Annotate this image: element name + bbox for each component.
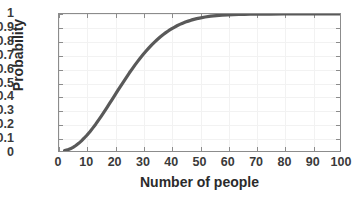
x-tick-label: 60: [221, 155, 235, 169]
x-tick-label: 0: [55, 155, 62, 169]
x-tick-label: 20: [108, 155, 122, 169]
x-tick-label: 80: [277, 155, 291, 169]
x-tick-label: 100: [331, 155, 352, 169]
y-tick-label: 0.1: [0, 131, 14, 145]
x-tick-label: 30: [136, 155, 150, 169]
y-axis-label: Probability: [10, 0, 26, 110]
x-tick-label: 70: [249, 155, 263, 169]
curve-svg: [59, 14, 340, 151]
chart-figure: 0102030405060708090100 00.10.20.30.40.50…: [0, 0, 359, 200]
probability-curve: [65, 14, 340, 151]
plot-area: [58, 13, 341, 152]
y-tick-label: 0: [7, 145, 14, 159]
x-axis-label: Number of people: [58, 174, 341, 190]
y-tick-label: 0.2: [0, 117, 14, 131]
x-tick-label: 40: [164, 155, 178, 169]
x-tick-label: 50: [193, 155, 207, 169]
x-tick-label: 90: [306, 155, 320, 169]
x-tick-label: 10: [79, 155, 93, 169]
